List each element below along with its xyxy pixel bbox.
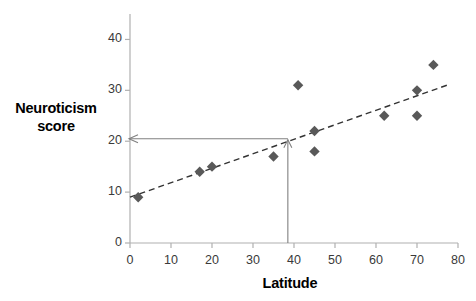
x-tick-label: 20 xyxy=(196,253,228,267)
data-point-marker xyxy=(309,126,319,136)
x-tick-label: 40 xyxy=(278,253,310,267)
x-tick-label: 10 xyxy=(155,253,187,267)
data-point-marker xyxy=(412,85,422,95)
data-point-marker xyxy=(412,111,422,121)
trend-line xyxy=(130,84,450,197)
y-tick-label: 30 xyxy=(84,82,122,96)
y-tick-label: 40 xyxy=(84,31,122,45)
data-point-marker xyxy=(293,80,303,90)
x-tick-label: 30 xyxy=(237,253,269,267)
data-point-marker xyxy=(268,151,278,161)
axis-lines xyxy=(130,14,458,243)
data-point-marker xyxy=(428,60,438,70)
x-axis-title: Latitude xyxy=(110,275,470,291)
data-point-marker xyxy=(207,161,217,171)
data-points xyxy=(133,60,439,203)
y-axis-title: Neuroticism score xyxy=(4,99,108,135)
x-tick-label: 60 xyxy=(360,253,392,267)
data-point-marker xyxy=(309,146,319,156)
x-tick-label: 0 xyxy=(114,253,146,267)
y-tick-label: 10 xyxy=(84,184,122,198)
y-axis-title-line1: Neuroticism xyxy=(4,99,108,117)
y-tick-label: 0 xyxy=(84,235,122,249)
x-tick-label: 70 xyxy=(401,253,433,267)
data-point-marker xyxy=(195,167,205,177)
x-tick-label: 80 xyxy=(442,253,474,267)
data-point-marker xyxy=(379,111,389,121)
scatter-plot-figure: Neuroticism score Latitude 0102030400102… xyxy=(0,0,476,301)
y-tick-label: 20 xyxy=(84,133,122,147)
x-tick-label: 50 xyxy=(319,253,351,267)
tick-marks xyxy=(125,39,458,248)
